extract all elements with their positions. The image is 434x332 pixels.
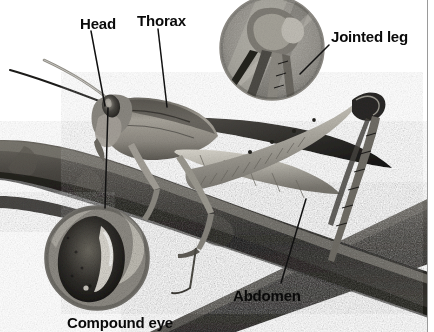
- label-thorax: Thorax: [137, 13, 186, 28]
- compound-eye-inset: [45, 206, 149, 310]
- label-head: Head: [80, 16, 116, 31]
- page-border-rule: [427, 0, 428, 332]
- label-abdomen: Abdomen: [233, 288, 301, 303]
- label-compound-eye: Compound eye: [67, 315, 173, 330]
- grasshopper-anatomy-figure: Head Thorax Jointed leg Abdomen Compound…: [0, 0, 434, 332]
- photo-canvas: [0, 0, 434, 332]
- label-jointed-leg: Jointed leg: [331, 29, 408, 44]
- photograph: [0, 0, 434, 332]
